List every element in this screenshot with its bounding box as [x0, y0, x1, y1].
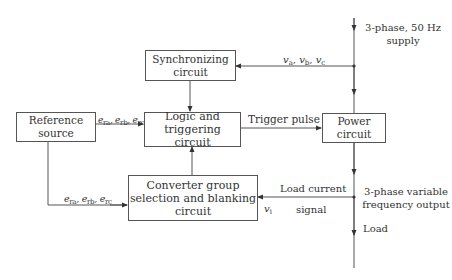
block-label: Power — [337, 115, 370, 128]
block-label: Reference — [29, 114, 83, 127]
power-circuit-block: Power circuit — [322, 113, 386, 143]
block-label: circuit — [337, 128, 371, 141]
output-label: 3-phase variable frequency output — [361, 185, 451, 211]
load-current-label: Load current — [280, 182, 346, 195]
vi-label: vi — [264, 202, 272, 219]
junction-dot — [352, 195, 355, 198]
trigger-pulse-label: Trigger pulse — [248, 113, 320, 126]
block-label: Logic and — [165, 110, 220, 123]
block-label: triggering circuit — [145, 123, 240, 149]
reference-source-block: Reference source — [16, 112, 96, 142]
ref-to-converter-signals-label: era, erb, erc — [64, 192, 112, 209]
supply-label: 3-phase, 50 Hz supply — [362, 21, 444, 47]
block-label: selection and blanking — [130, 192, 256, 205]
converter-group-selection-block: Converter group selection and blanking c… — [128, 175, 258, 221]
block-label: Converter group — [147, 179, 240, 192]
signal-label: signal — [296, 203, 326, 216]
load-label: Load — [363, 222, 388, 235]
block-label: circuit — [173, 66, 207, 79]
block-label: Synchronizing — [152, 53, 228, 66]
block-label: source — [38, 127, 74, 140]
synchronizing-circuit-block: Synchronizing circuit — [145, 50, 236, 81]
junction-dot — [352, 64, 355, 67]
sync-signals-label: va, vb, vc — [283, 53, 325, 70]
logic-triggering-circuit-block: Logic and triggering circuit — [144, 112, 241, 147]
block-label: circuit — [175, 205, 211, 218]
ref-to-logic-signals-label: era, erb, erc — [98, 114, 144, 130]
